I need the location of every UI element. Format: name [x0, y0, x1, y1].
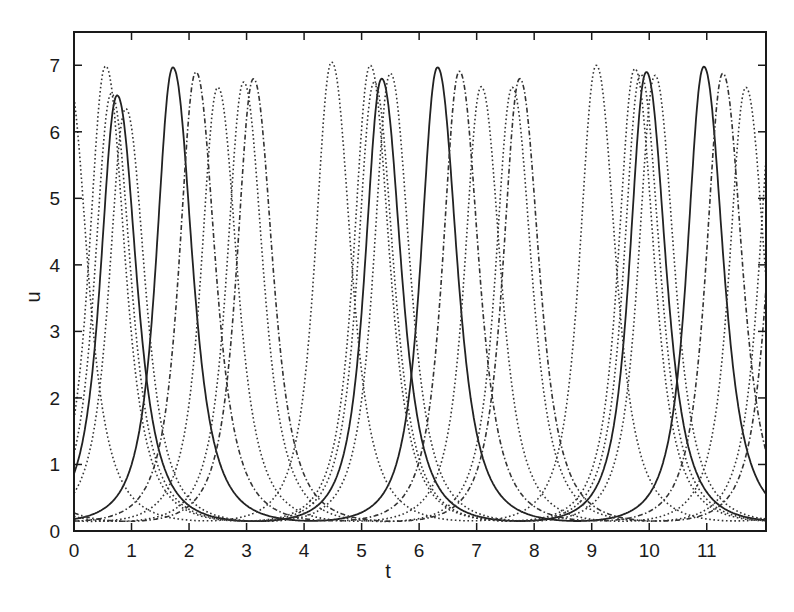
axis-ticks: 0123456789101101234567	[49, 32, 766, 561]
chart: 0123456789101101234567 t u	[0, 0, 794, 612]
y-tick-label: 7	[49, 55, 60, 76]
y-axis-label: u	[22, 291, 44, 302]
x-tick-label: 5	[356, 540, 367, 561]
y-tick-label: 3	[49, 321, 60, 342]
x-tick-label: 3	[241, 540, 252, 561]
series-line-u8	[74, 79, 766, 522]
x-tick-label: 7	[471, 540, 482, 561]
y-tick-label: 4	[49, 255, 60, 276]
x-tick-label: 8	[529, 540, 540, 561]
series-line-u3	[74, 62, 766, 521]
y-tick-label: 5	[49, 188, 60, 209]
series-line-u2	[74, 67, 766, 521]
y-tick-label: 6	[49, 122, 60, 143]
x-tick-label: 0	[69, 540, 80, 561]
x-axis-label: t	[385, 560, 391, 582]
y-tick-label: 0	[49, 521, 60, 542]
x-tick-label: 2	[184, 540, 195, 561]
y-tick-label: 1	[49, 454, 60, 475]
y-tick-label: 2	[49, 388, 60, 409]
x-tick-label: 10	[639, 540, 660, 561]
x-tick-label: 4	[299, 540, 310, 561]
series-line-u6	[74, 87, 766, 522]
x-tick-label: 11	[697, 540, 717, 561]
x-tick-label: 6	[414, 540, 425, 561]
series-line-u4	[74, 74, 766, 521]
x-tick-label: 9	[586, 540, 597, 561]
x-tick-label: 1	[126, 540, 137, 561]
plot-lines	[74, 62, 766, 522]
